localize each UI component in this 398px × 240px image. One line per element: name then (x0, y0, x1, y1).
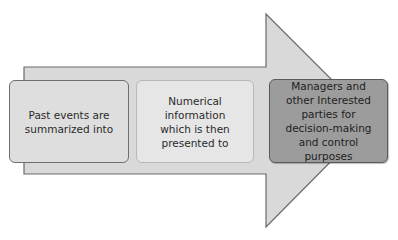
step-box-numerical-information: Numerical information which is then pres… (136, 80, 254, 163)
step-box-past-events: Past events are summarized into (9, 80, 129, 163)
step-label: Past events are summarized into (25, 108, 113, 136)
step-label: Numerical information which is then pres… (160, 94, 230, 150)
step-box-managers: Managers and other Interested parties fo… (269, 79, 388, 163)
step-label: Managers and other Interested parties fo… (274, 79, 383, 163)
